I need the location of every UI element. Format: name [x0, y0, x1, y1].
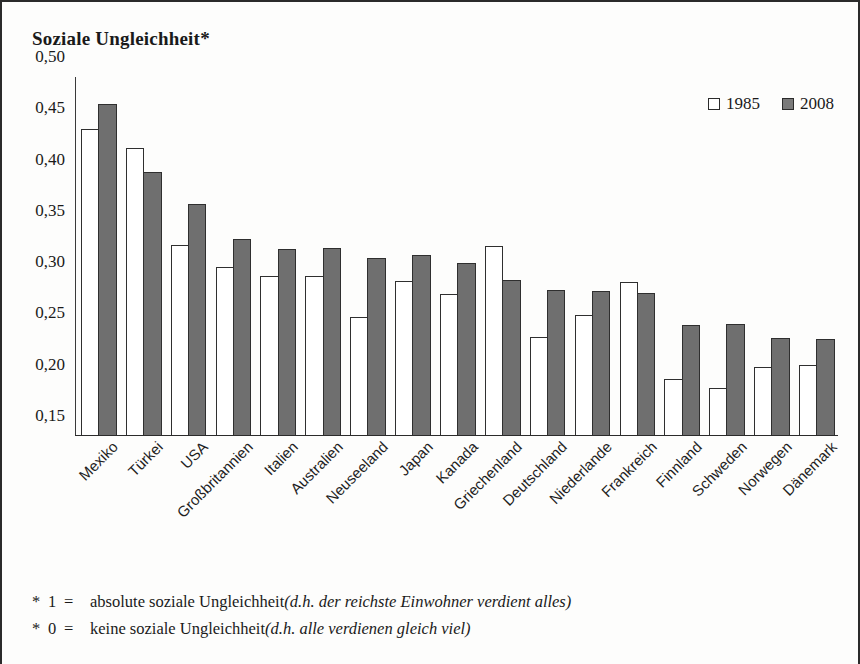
- bar-2008: [143, 172, 162, 436]
- footnote-asterisk: *: [32, 588, 48, 615]
- bar-2008: [816, 339, 835, 436]
- bar-group: [81, 77, 118, 436]
- bar-group: [709, 77, 746, 436]
- footnote-note: (d.h. alle verdienen gleich viel): [265, 615, 471, 642]
- chart-figure: Soziale Ungleichheit* 19852008 0,500,450…: [0, 0, 860, 664]
- bar-1985: [305, 276, 324, 436]
- bar-group: [575, 77, 612, 436]
- bar-group: [305, 77, 342, 436]
- bar-1985: [530, 337, 549, 436]
- footnote-text: keine soziale Ungleichheit: [90, 615, 265, 642]
- bar-2008: [278, 249, 297, 436]
- bar-2008: [502, 280, 521, 436]
- footnote-row: *0=keine soziale Ungleichheit (d.h. alle…: [32, 615, 571, 642]
- bar-2008: [98, 104, 117, 436]
- y-tick-label: 0,25: [35, 303, 65, 323]
- bar-2008: [637, 293, 656, 436]
- bar-1985: [395, 281, 414, 436]
- x-axis-line: [75, 435, 838, 436]
- y-tick-label: 0,50: [35, 47, 65, 67]
- bar-2008: [682, 325, 701, 436]
- bar-1985: [216, 267, 235, 436]
- x-tick-label: USA: [177, 438, 211, 472]
- bar-1985: [754, 367, 773, 436]
- bar-group: [754, 77, 791, 436]
- bar-1985: [709, 388, 728, 436]
- footnote-note: (d.h. der reichste Einwohner verdient al…: [284, 588, 571, 615]
- bar-group: [350, 77, 387, 436]
- bar-1985: [575, 315, 594, 436]
- bar-2008: [592, 291, 611, 436]
- x-axis-labels: MexikoTürkeiUSAGroßbritannienItalienAust…: [75, 438, 838, 558]
- bar-2008: [726, 324, 745, 436]
- bar-group: [485, 77, 522, 436]
- x-tick-label: Türkei: [125, 438, 166, 479]
- bar-group: [664, 77, 701, 436]
- bar-group: [530, 77, 567, 436]
- bar-2008: [367, 258, 386, 436]
- bar-1985: [664, 379, 683, 436]
- bar-2008: [771, 338, 790, 436]
- bar-1985: [620, 282, 639, 436]
- bar-1985: [799, 365, 818, 436]
- y-tick-label: 0,15: [35, 406, 65, 426]
- bar-group: [799, 77, 836, 436]
- y-tick-label: 0,45: [35, 98, 65, 118]
- footnote-value: 0: [48, 615, 64, 642]
- bar-1985: [126, 148, 145, 436]
- bar-group: [620, 77, 657, 436]
- plot-area: 0,500,450,400,350,300,250,200,15: [75, 77, 838, 436]
- bar-group: [171, 77, 208, 436]
- y-tick-label: 0,35: [35, 201, 65, 221]
- bar-1985: [81, 129, 100, 436]
- bar-1985: [485, 246, 504, 436]
- y-tick-label: 0,40: [35, 150, 65, 170]
- footnote-text: absolute soziale Ungleichheit: [90, 588, 284, 615]
- bar-1985: [350, 317, 369, 436]
- bar-2008: [188, 204, 207, 436]
- y-tick-label: 0,20: [35, 355, 65, 375]
- bar-group: [216, 77, 253, 436]
- footnotes: *1=absolute soziale Ungleichheit (d.h. d…: [32, 588, 571, 642]
- footnote-equals: =: [64, 615, 90, 642]
- bar-2008: [547, 290, 566, 436]
- bar-2008: [457, 263, 476, 436]
- x-tick-label: Mexiko: [76, 438, 122, 484]
- bar-group: [440, 77, 477, 436]
- bar-1985: [440, 294, 459, 436]
- x-tick-label: Japan: [395, 438, 436, 479]
- bar-group: [260, 77, 297, 436]
- bar-series-container: [75, 77, 838, 436]
- bar-group: [395, 77, 432, 436]
- bar-1985: [260, 276, 279, 436]
- bar-2008: [233, 239, 252, 436]
- bar-group: [126, 77, 163, 436]
- footnote-row: *1=absolute soziale Ungleichheit (d.h. d…: [32, 588, 571, 615]
- x-tick-label: Italien: [261, 438, 301, 478]
- footnote-asterisk: *: [32, 615, 48, 642]
- bar-1985: [171, 245, 190, 436]
- footnote-equals: =: [64, 588, 90, 615]
- y-tick-label: 0,30: [35, 252, 65, 272]
- bar-2008: [412, 255, 431, 436]
- footnote-value: 1: [48, 588, 64, 615]
- bar-2008: [323, 248, 342, 436]
